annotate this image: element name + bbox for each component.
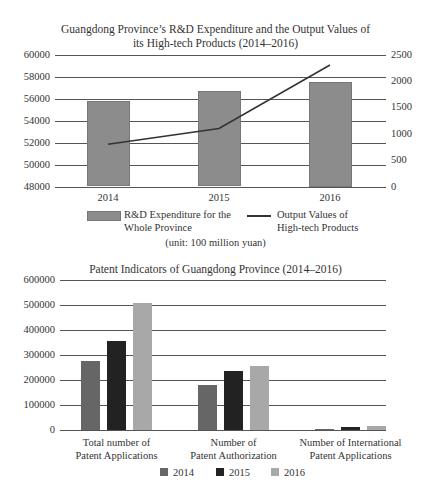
patent-bar [367,426,386,430]
patent-bar [198,385,217,430]
legend-output-line-2: High-tech Products [277,221,358,234]
y-tick-label: 400000 [0,324,55,336]
legend-label: 2016 [284,466,305,479]
y-tick-label: 200000 [0,374,55,386]
category-label-line: Total number of [57,436,177,449]
y-tick-label: 500000 [0,299,55,311]
patent-bar [315,429,334,430]
category-label: Number of InternationalPatent Applicatio… [291,436,411,462]
legend-swatch [271,468,279,476]
legend-swatch [216,468,224,476]
category-label-line: Number of [174,436,294,449]
y-tick-label: 300000 [0,349,55,361]
legend-bar-swatch [87,211,121,221]
category-label-line: Patent Applications [291,449,411,462]
patent-bar [250,366,269,430]
patent-bar [341,427,360,430]
category-label: 2016 [300,191,360,204]
legend-output-label: Output Values of High-tech Products [277,208,358,234]
gridline [60,330,386,331]
unit-note: (unit: 100 million yuan) [0,236,431,249]
y-tick-label: 0 [0,424,55,436]
patent-bar [107,341,126,430]
category-label: Number ofPatent Authorization [174,436,294,462]
gridline [60,430,386,431]
patent-bar [81,361,100,430]
category-label: 2015 [189,191,249,204]
legend-label: 2015 [229,466,250,479]
y-tick-label: 100000 [0,399,55,411]
y-tick-label: 600000 [0,274,55,286]
gridline [60,305,386,306]
legend-label: 2014 [173,466,194,479]
patent-bar [133,303,152,430]
category-label-line: Patent Applications [57,449,177,462]
legend-line-swatch [247,215,271,217]
category-label-line: Patent Authorization [174,449,294,462]
category-label: 2014 [78,191,138,204]
legend-rd-label: R&D Expenditure for the Whole Province [124,208,231,234]
category-label: Total number ofPatent Applications [57,436,177,462]
legend-swatch [160,468,168,476]
gridline [60,280,386,281]
patent-chart-title: Patent Indicators of Guangdong Province … [0,262,431,276]
legend-output-line-1: Output Values of [277,208,358,221]
legend-rd-line-1: R&D Expenditure for the [124,208,231,221]
patent-bar [224,371,243,430]
legend-rd-line-2: Whole Province [124,221,231,234]
category-label-line: Number of International [291,436,411,449]
